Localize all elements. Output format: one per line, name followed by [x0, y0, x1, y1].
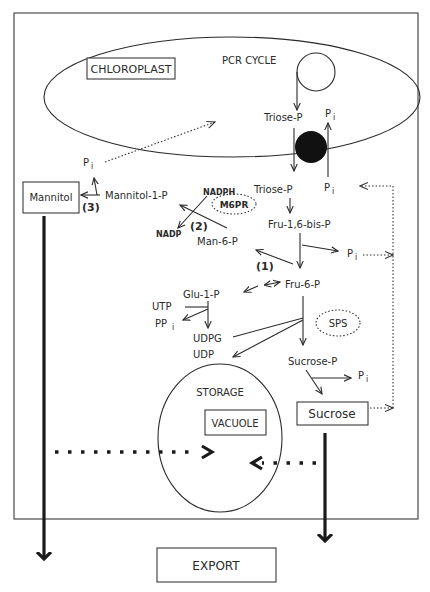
svg-text:P: P: [325, 108, 331, 119]
phosphate-translocator: [295, 131, 327, 163]
udp-label: UDP: [193, 349, 214, 360]
ppi-release-arrow: [183, 309, 208, 320]
sucrose-label: Sucrose: [308, 407, 355, 421]
chloroplast-label: CHLOROPLAST: [87, 58, 175, 79]
fru-6-p: Fru-6-P: [285, 279, 320, 290]
svg-text:PP: PP: [155, 318, 167, 329]
sps-label: SPS: [329, 318, 348, 329]
nadph-label: NADPH: [203, 188, 235, 197]
pi-fbp: P i: [347, 248, 357, 262]
mannitol-vacuole-arrowhead: [202, 446, 212, 458]
sucrose-vacuole-arrowhead: [252, 457, 262, 469]
step-3-label: (3): [82, 201, 100, 214]
cell-boundary: [14, 13, 418, 519]
pi-sucrose: P i: [358, 370, 368, 384]
fbp-to-pi-arrow: [302, 245, 338, 251]
svg-text:P: P: [358, 370, 364, 381]
utp-label: UTP: [152, 301, 171, 312]
vacuole-label-box: VACUOLE: [205, 410, 266, 435]
sps-to-udp-arrow: [233, 320, 303, 357]
to-glu1p-arrow: [244, 286, 258, 292]
svg-text:i: i: [332, 187, 334, 196]
pi-transport: P i: [324, 182, 334, 196]
pcr-cycle-circle: [297, 53, 335, 91]
svg-text:i: i: [91, 162, 93, 171]
svg-text:i: i: [366, 375, 368, 384]
pcr-cycle-label: PCR CYCLE: [222, 55, 276, 66]
chloroplast-text: CHLOROPLAST: [91, 63, 172, 76]
sucrose-p: Sucrose-P: [288, 356, 337, 367]
f6p-glu1p-reversible-arrow: [265, 282, 280, 285]
step-1-label: (1): [256, 260, 274, 273]
storage-label: STORAGE: [196, 387, 244, 398]
mannitol-pi-release-arrow: [94, 178, 97, 195]
nadp-label: NADP: [156, 230, 182, 239]
svg-text:P: P: [347, 248, 353, 259]
triose-p-chloroplast: Triose-P: [263, 112, 303, 123]
svg-text:i: i: [172, 323, 174, 332]
export-label: EXPORT: [192, 559, 240, 573]
m6pr-label: M6PR: [220, 200, 249, 210]
udpg-to-sps-line: [233, 318, 303, 337]
fru-1-6-bis-p: Fru-1,6-bis-P: [268, 219, 331, 230]
triose-p-cytosol: Triose-P: [253, 184, 293, 195]
pi-mannitol: P i: [83, 157, 93, 171]
mannitol-box: Mannitol: [23, 182, 79, 213]
pi-recycle-dotted-path: [360, 186, 393, 408]
pi-chloroplast: P i: [325, 108, 335, 122]
man-6-p: Man-6-P: [197, 236, 238, 247]
udpg-label: UDPG: [193, 333, 222, 344]
glu-1-p: Glu-1-P: [183, 289, 219, 300]
svg-text:i: i: [355, 253, 357, 262]
step-2-label: (2): [190, 220, 208, 233]
svg-text:i: i: [333, 113, 335, 122]
vacuole-label: VACUOLE: [212, 418, 259, 429]
sucrosep-to-sucrose-arrow: [306, 370, 322, 394]
svg-text:P: P: [324, 182, 330, 193]
export-box: EXPORT: [157, 548, 276, 582]
mannitol-1-p: Mannitol-1-P: [105, 190, 168, 201]
mannitol-sucrose-pathway-diagram: CHLOROPLAST PCR CYCLE Triose-P P i Trios…: [0, 0, 430, 592]
sucrose-box: Sucrose: [297, 402, 368, 425]
svg-text:P: P: [83, 157, 89, 168]
mannitol-label: Mannitol: [29, 192, 72, 203]
ppi-label: PP i: [155, 318, 174, 332]
